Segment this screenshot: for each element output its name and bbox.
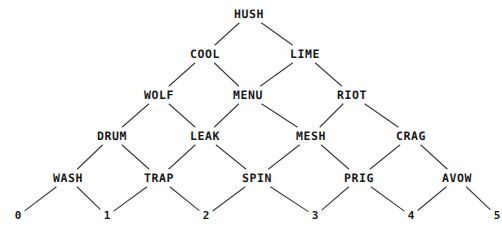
lattice-edge [214,63,238,86]
lattice-edge [114,187,147,211]
axis-tick-label-0: 0 [15,210,22,222]
axis-tick-label-5: 5 [494,210,501,222]
lattice-edge [77,187,100,209]
lattice-edge [271,187,308,211]
lattice-node-cool[interactable]: COOL [188,48,222,61]
lattice-node-spin[interactable]: SPIN [240,172,274,185]
lattice-node-mesh[interactable]: MESH [294,130,328,143]
lattice-edge [466,187,490,209]
lattice-edge [122,104,148,127]
lattice-node-hush[interactable]: HUSH [232,8,266,21]
axis-tick-label-2: 2 [203,210,210,222]
lattice-edge [122,145,149,169]
lattice-edge [421,145,447,169]
lattice-edge [215,23,239,45]
lattice-edge [315,63,341,86]
lattice-edge [169,145,195,169]
lattice-node-crag[interactable]: CRAG [394,130,428,143]
lattice-edge [371,187,404,211]
lattice-edge [261,63,293,86]
lattice-node-drum[interactable]: DRUM [95,130,129,143]
lattice-edge [214,104,238,127]
lattice-node-wash[interactable]: WASH [51,172,85,185]
lattice-node-wolf[interactable]: WOLF [142,89,176,102]
axis-tick-label-3: 3 [312,210,319,222]
lattice-node-prig[interactable]: PRIG [342,172,376,185]
lattice-edge [322,187,349,210]
lattice-node-avow[interactable]: AVOW [440,172,474,185]
lattice-node-lime[interactable]: LIME [288,48,322,61]
lattice-diagram: HUSHCOOLLIMEWOLFMENURIOTDRUMLEAKMESHCRAG… [0,0,502,237]
lattice-node-riot[interactable]: RIOT [335,89,369,102]
lattice-edge [262,104,297,127]
lattice-edge [169,63,195,86]
lattice-node-trap[interactable]: TRAP [142,172,176,185]
axis-tick-label-1: 1 [104,210,111,222]
lattice-edge [418,187,446,210]
lattice-edge [169,104,195,127]
lattice-edge [25,187,56,211]
lattice-node-menu[interactable]: MENU [231,89,265,102]
lattice-edge [216,145,246,169]
lattice-edges-layer [0,0,502,237]
lattice-edge [365,104,398,127]
lattice-edge [370,145,400,169]
lattice-edge [320,104,343,127]
lattice-edge [77,145,102,169]
lattice-edge [269,145,300,169]
lattice-edge [262,23,293,45]
axis-tick-label-4: 4 [408,210,415,222]
lattice-edge [321,145,348,169]
lattice-edge [170,187,199,210]
lattice-node-leak[interactable]: LEAK [188,130,222,143]
lattice-edge [213,187,245,211]
